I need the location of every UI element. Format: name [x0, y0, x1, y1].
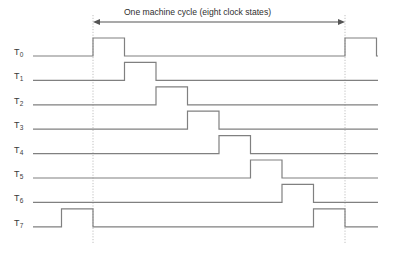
signal-label-t7: T7: [14, 218, 23, 228]
signal-label-t0: T0: [14, 47, 23, 57]
timing-diagram: One machine cycle (eight clock states) T…: [0, 0, 395, 254]
signal-label-subscript: 0: [20, 51, 24, 58]
signal-label-text: T: [14, 120, 20, 130]
waveform-t0: [33, 38, 378, 56]
signal-label-subscript: 6: [20, 197, 24, 204]
cycle-arrow-head-right: [338, 19, 345, 25]
cycle-span-arrow: [93, 19, 345, 25]
waveform-traces-group: [33, 38, 378, 227]
timing-waveform-canvas: [0, 0, 395, 254]
signal-label-text: T: [14, 218, 20, 228]
signal-label-text: T: [14, 169, 20, 179]
signal-label-subscript: 3: [20, 124, 24, 131]
signal-label-t1: T1: [14, 71, 23, 81]
signal-label-subscript: 4: [20, 149, 24, 156]
signal-label-text: T: [14, 47, 20, 57]
signal-label-subscript: 2: [20, 100, 24, 107]
signal-label-text: T: [14, 145, 20, 155]
waveform-t4: [33, 136, 378, 154]
signal-label-t5: T5: [14, 169, 23, 179]
waveform-t7: [33, 209, 378, 227]
signal-label-t6: T6: [14, 193, 23, 203]
waveform-t5: [33, 160, 378, 178]
signal-label-t3: T3: [14, 120, 23, 130]
signal-label-text: T: [14, 71, 20, 81]
signal-label-text: T: [14, 193, 20, 203]
signal-label-text: T: [14, 96, 20, 106]
signal-label-t4: T4: [14, 145, 23, 155]
signal-label-subscript: 1: [20, 75, 24, 82]
signal-label-subscript: 5: [20, 173, 24, 180]
signal-label-t2: T2: [14, 96, 23, 106]
waveform-t6: [33, 184, 378, 202]
waveform-t3: [33, 111, 378, 129]
waveform-t1: [33, 62, 378, 80]
waveform-t2: [33, 87, 378, 105]
signal-label-subscript: 7: [20, 222, 24, 229]
cycle-arrow-head-left: [93, 19, 100, 25]
